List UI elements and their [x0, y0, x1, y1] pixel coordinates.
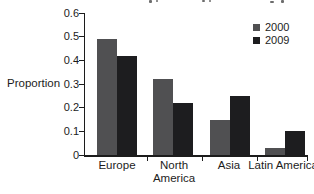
bar-2000-latin-america [265, 148, 285, 155]
bar-group-europe [97, 13, 137, 155]
legend-swatch-2009 [253, 37, 260, 44]
bar-2009-latin-america [285, 131, 305, 155]
y-tick-label-0: 0 [53, 149, 79, 162]
y-tick-label-0.6: 0.6 [53, 7, 79, 20]
legend-item-2000: 2000 [253, 21, 289, 33]
bar-2000-north-america [153, 79, 173, 155]
legend: 20002009 [253, 21, 289, 47]
y-tick-label-0.3: 0.3 [53, 78, 79, 91]
y-tick-label-0.2: 0.2 [53, 101, 79, 114]
legend-swatch-2000 [253, 24, 260, 31]
legend-label-2000: 2000 [265, 21, 289, 33]
x-category-label-latin-america: Latin America [248, 159, 314, 172]
x-axis-line [84, 155, 308, 157]
bar-group-asia [210, 13, 250, 155]
legend-item-2009: 2009 [253, 34, 289, 46]
y-tick-label-0.5: 0.5 [53, 30, 79, 43]
bar-2009-europe [117, 56, 137, 155]
bar-chart-figure: Proportion 0.60.50.40.30.20.10 EuropeNor… [0, 0, 314, 194]
y-tick-label-0.4: 0.4 [53, 54, 79, 67]
bar-2000-asia [210, 120, 230, 156]
legend-label-2009: 2009 [265, 34, 289, 46]
bar-2009-north-america [173, 103, 193, 155]
y-tick-label-0.1: 0.1 [53, 125, 79, 138]
bar-2009-asia [230, 96, 250, 155]
bar-2000-europe [97, 39, 117, 155]
bar-group-north-america [153, 13, 193, 155]
